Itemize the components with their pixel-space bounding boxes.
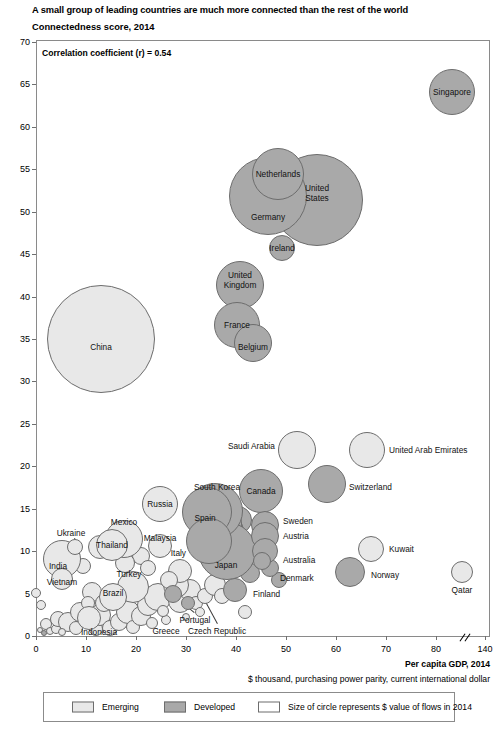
y-axis-tick-label: 40 <box>6 292 30 302</box>
bubble-label-norway: Norway <box>371 570 399 580</box>
bubble-united-arab-emirates[interactable] <box>349 432 385 468</box>
y-axis-tick-label: 0 <box>6 631 30 641</box>
x-axis-tick-label: 10 <box>81 644 91 654</box>
bubble-label-south-korea: South Korea <box>194 482 240 492</box>
bubble-label-qatar: Qatar <box>452 585 473 595</box>
bubble-china[interactable] <box>47 285 155 393</box>
bubble-label-thailand: Thailand <box>96 540 128 550</box>
bubble-label-singapore: Singapore <box>433 87 471 97</box>
bubble-label-indonesia: Indonesia <box>81 627 117 637</box>
y-axis-tick-label: 20 <box>6 461 30 471</box>
bubble-portugal[interactable] <box>164 585 182 603</box>
y-axis-tick-mark <box>32 254 36 255</box>
chart-root: A small group of leading countries are m… <box>0 0 498 732</box>
bubble-label-portugal: Portugal <box>180 615 211 625</box>
bubble-czech-republic[interactable] <box>181 596 195 610</box>
x-axis-tick-mark <box>36 636 37 640</box>
bubble-norway[interactable] <box>335 557 365 587</box>
legend-label-size: Size of circle represents $ value of flo… <box>288 702 472 712</box>
bubble-ukraine[interactable] <box>67 539 83 555</box>
bubble-qatar[interactable] <box>451 561 473 583</box>
y-axis-tick-label: 55 <box>6 164 30 174</box>
y-axis-tick-mark <box>32 551 36 552</box>
y-axis-tick-mark <box>32 169 36 170</box>
x-axis-tick-mark <box>386 636 387 640</box>
x-axis-tick-mark <box>236 636 237 640</box>
bubble-switzerland[interactable] <box>308 465 346 503</box>
bubble-finland[interactable] <box>223 578 247 602</box>
chart-subtitle: Connectedness score, 2014 <box>32 22 154 32</box>
y-axis-tick-mark <box>32 466 36 467</box>
bubble-kuwait[interactable] <box>358 536 384 562</box>
bubble-label-finland: Finland <box>253 589 280 599</box>
bubble-label-netherlands: Netherlands <box>256 169 301 179</box>
legend-swatch-emerging <box>72 702 94 713</box>
x-axis-tick-mark <box>286 636 287 640</box>
x-axis-tick-label: 40 <box>231 644 241 654</box>
bubble-unlabeled[interactable] <box>58 628 66 636</box>
x-axis-tick-label: 70 <box>381 644 391 654</box>
legend-label-developed: Developed <box>194 702 235 712</box>
y-axis-tick-label: 5 <box>6 589 30 599</box>
bubble-label-kuwait: Kuwait <box>389 544 414 554</box>
x-axis-tick-mark <box>186 636 187 640</box>
y-axis-tick-label: 65 <box>6 79 30 89</box>
bubble-label-austria: Austria <box>283 531 309 541</box>
y-axis-tick-label: 45 <box>6 249 30 259</box>
bubble-label-ireland: Ireland <box>269 243 294 253</box>
y-axis-tick-mark <box>32 509 36 510</box>
bubble-label-spain: Spain <box>194 513 215 523</box>
y-axis-tick-label: 50 <box>6 207 30 217</box>
y-axis-tick-label: 70 <box>6 37 30 47</box>
bubble-label-brazil: Brazil <box>103 588 124 598</box>
x-axis-tick-label: 20 <box>131 644 141 654</box>
bubble-label-turkey: Turkey <box>116 569 141 579</box>
x-axis-tick-label: 50 <box>281 644 291 654</box>
y-axis-tick-label: 10 <box>6 546 30 556</box>
bubble-label-denmark: Denmark <box>280 573 314 583</box>
bubble-label-germany: Germany <box>251 212 285 222</box>
bubble-unlabeled[interactable] <box>36 600 46 610</box>
y-axis-tick-mark <box>32 297 36 298</box>
x-axis-tick-label: 0 <box>33 644 38 654</box>
legend-swatch-developed <box>164 702 186 713</box>
legend-swatch-size <box>258 702 280 713</box>
bubble-unlabeled[interactable] <box>238 605 252 619</box>
x-axis-tick-label: 80 <box>431 644 441 654</box>
x-axis-tick-label: 30 <box>181 644 191 654</box>
bubble-italy[interactable] <box>186 518 232 564</box>
bubble-denmark[interactable] <box>253 552 271 570</box>
y-axis-tick-label: 60 <box>6 122 30 132</box>
bubble-saudi-arabia[interactable] <box>278 431 316 469</box>
bubble-label-united-kingdom: UnitedKingdom <box>224 270 257 290</box>
bubble-label-italy: Italy <box>171 548 186 558</box>
bubble-label-china: China <box>90 342 112 352</box>
bubble-label-russia: Russia <box>147 499 172 509</box>
bubble-unlabeled[interactable] <box>31 588 41 598</box>
correlation-annotation: Correlation coefficient (r) = 0.54 <box>42 48 171 58</box>
bubble-greece[interactable] <box>157 605 169 617</box>
bubble-label-saudi-arabia: Saudi Arabia <box>228 441 275 451</box>
bubble-label-france: France <box>224 320 250 330</box>
bubble-label-mexico: Mexico <box>111 517 137 527</box>
y-axis-tick-mark <box>32 339 36 340</box>
bubble-label-ukraine: Ukraine <box>57 528 86 538</box>
y-axis-tick-mark <box>32 84 36 85</box>
bubble-label-india: India <box>49 561 67 571</box>
y-axis-tick-label: 15 <box>6 504 30 514</box>
y-axis-tick-mark <box>32 424 36 425</box>
bubble-label-canada: Canada <box>246 486 275 496</box>
y-axis-tick-label: 25 <box>6 419 30 429</box>
bubble-label-sweden: Sweden <box>283 516 313 526</box>
y-axis-tick-mark <box>32 127 36 128</box>
legend-label-emerging: Emerging <box>102 702 139 712</box>
y-axis-tick-label: 35 <box>6 334 30 344</box>
y-axis-tick-mark <box>32 42 36 43</box>
x-axis-tick-label: 140 <box>477 644 492 654</box>
x-axis-subtitle: $ thousand, purchasing power parity, cur… <box>248 674 490 684</box>
bubble-label-united-states: UnitedStates <box>305 183 329 203</box>
x-axis-title: Per capita GDP, 2014 <box>405 659 490 669</box>
x-axis-tick-mark <box>485 636 486 640</box>
bubble-label-malaysia: Malaysia <box>144 533 177 543</box>
x-axis-tick-mark <box>136 636 137 640</box>
